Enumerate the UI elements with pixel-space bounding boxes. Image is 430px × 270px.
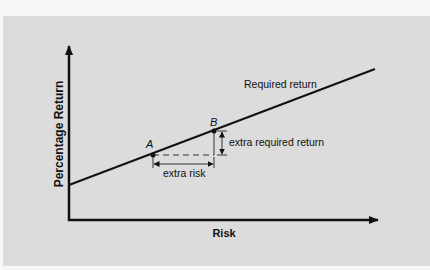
- extra-risk-label: extra risk: [163, 167, 206, 179]
- line-label: Required return: [244, 78, 317, 90]
- risk-return-diagram: Percentage Return Risk Required return A…: [0, 0, 430, 270]
- point-a-label: A: [145, 138, 153, 150]
- point-b-label: B: [210, 116, 217, 128]
- extra-return-label: extra required return: [229, 136, 324, 148]
- point-a: [151, 153, 156, 158]
- x-axis-label: Risk: [212, 227, 236, 239]
- point-b: [212, 129, 217, 134]
- required-return-line: [69, 69, 375, 185]
- y-axis-label: Percentage Return: [52, 81, 66, 188]
